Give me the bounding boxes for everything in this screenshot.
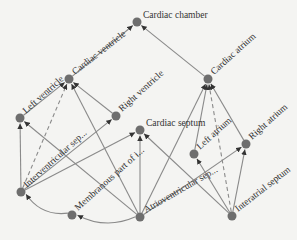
label-membranous-part: Membranous part of i... (73, 145, 146, 212)
node-left-atrium[interactable] (190, 150, 199, 159)
node-cardiac-septum[interactable] (136, 126, 145, 135)
label-cardiac-septum: Cardiac septum (146, 118, 206, 128)
node-atrioventricular-sep[interactable] (136, 213, 145, 222)
node-cardiac-atrium[interactable] (204, 75, 213, 84)
edge-atrioventricular-sep-to-membranous-part (77, 215, 135, 223)
node-right-ventricle[interactable] (112, 112, 121, 121)
label-cardiac-ventricle: Cardiac ventricle (70, 29, 128, 77)
node-membranous-part[interactable] (68, 211, 77, 220)
edge-interatrial-septum-to-cardiac-atrium (209, 84, 231, 211)
label-cardiac-chamber: Cardiac chamber (143, 10, 208, 20)
node-interventricular-sep[interactable] (17, 188, 26, 197)
label-cardiac-atrium: Cardiac atrium (209, 31, 258, 77)
edge-membranous-part-to-interventricular-sep (26, 194, 68, 213)
node-right-atrium[interactable] (242, 140, 251, 149)
edges-layer (20, 25, 245, 223)
label-interatrial-septum: Interatrial septum (233, 164, 293, 214)
edge-interventricular-sep-to-left-ventricle (20, 123, 21, 187)
edge-cardiac-atrium-to-cardiac-chamber (141, 25, 204, 76)
label-left-ventricle: Left ventricle (21, 74, 66, 116)
node-left-ventricle[interactable] (16, 114, 25, 123)
knowledge-graph-canvas: Cardiac chamberCardiac ventricleCardiac … (0, 0, 297, 240)
label-right-ventricle: Right ventricle (117, 68, 166, 113)
label-right-atrium: Right atrium (247, 101, 290, 141)
label-interventricular-sep: Interventricular sep... (22, 128, 89, 190)
node-interatrial-septum[interactable] (228, 212, 237, 221)
graph-svg: Cardiac chamberCardiac ventricleCardiac … (0, 0, 297, 240)
node-cardiac-chamber[interactable] (133, 18, 142, 27)
node-cardiac-ventricle[interactable] (65, 75, 74, 84)
